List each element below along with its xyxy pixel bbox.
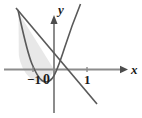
x-tick-label-zero: 0 [43,72,50,87]
math-figure: −1 0 1 x y [0,0,142,118]
y-axis-arrow [50,15,57,24]
x-axis-label: x [130,62,138,77]
x-tick-label-one: 1 [84,72,91,87]
figure-canvas: −1 0 1 x y [0,0,142,118]
x-axis-arrow [120,66,128,73]
y-axis-label: y [56,2,64,17]
x-tick-label-minus-one: −1 [27,72,41,87]
